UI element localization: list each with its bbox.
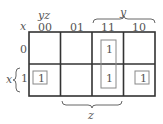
y-brace-label: y [120,7,126,18]
col-label-10: 10 [132,22,146,33]
x-brace-label: x [6,74,12,85]
col-label-11: 11 [101,22,115,33]
z-brace-label: z [88,110,94,121]
z-brace [62,101,122,108]
row-variable-label: x [20,21,26,32]
kmap-grid [29,32,155,96]
cell-1-00: 1 [38,73,45,84]
kmap-drawing [0,0,163,124]
x-brace [13,68,20,92]
row-label-0: 0 [20,44,27,55]
col-variables-label: yz [38,10,50,21]
cell-0-11: 1 [106,44,113,55]
row-label-1: 1 [21,73,28,84]
col-label-01: 01 [70,22,84,33]
cell-1-10: 1 [140,73,147,84]
col-label-00: 00 [38,22,52,33]
cell-1-11: 1 [106,73,113,84]
